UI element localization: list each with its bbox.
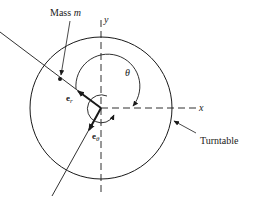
turntable-label: Turntable — [200, 136, 239, 146]
y-axis-label: y — [104, 15, 108, 25]
theta-arc-icon — [76, 54, 140, 106]
turntable-leader-line — [174, 121, 196, 133]
e-r-label: er — [66, 94, 73, 105]
e-r-subscript: r — [70, 97, 73, 105]
diagram-canvas — [0, 0, 254, 200]
turntable-diagram: Mass m y x θ er eθ Turntable — [0, 0, 254, 200]
e-theta-label: eθ — [92, 132, 99, 143]
x-axis-label: x — [199, 103, 203, 113]
e-r-vector-icon — [78, 91, 101, 108]
e-theta-subscript: θ — [96, 135, 99, 143]
mass-point — [58, 77, 62, 81]
mass-label: Mass m — [50, 8, 81, 18]
mass-label-text: Mass — [50, 7, 71, 18]
e-theta-vector-icon — [89, 108, 101, 130]
mass-symbol: m — [74, 7, 81, 18]
theta-label: θ — [125, 68, 130, 78]
